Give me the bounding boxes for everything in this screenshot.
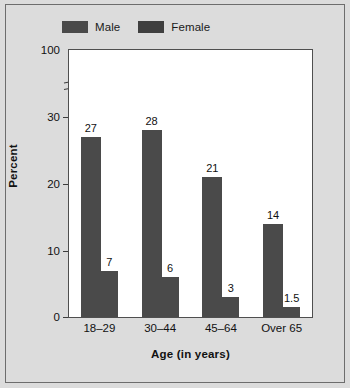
bar-value-label: 3 [213, 282, 249, 294]
bar-male-0 [81, 137, 101, 317]
x-tick-label: Over 65 [261, 322, 302, 334]
x-axis-tick-labels: 18–2930–4445–64Over 65 [68, 322, 313, 338]
bar-male-2 [202, 177, 222, 317]
bar-value-label: 14 [255, 209, 291, 221]
legend-swatch-female [138, 21, 164, 33]
bars-container: 277286213141.5 [69, 50, 312, 317]
plot-area: 277286213141.5 [68, 49, 313, 318]
legend-label-male: Male [95, 21, 120, 33]
bar-value-label: 21 [194, 162, 230, 174]
y-tick-label: 10 [47, 245, 60, 257]
x-tick-label: 18–29 [83, 322, 115, 334]
y-tick-label: 0 [54, 311, 60, 323]
bar-value-label: 28 [134, 115, 170, 127]
bar-female-1 [162, 277, 179, 317]
y-tick-label: 100 [41, 44, 60, 56]
y-tick-label: 30 [47, 111, 60, 123]
bar-value-label: 6 [152, 262, 188, 274]
y-tick-label: 20 [47, 178, 60, 190]
bar-female-3 [283, 307, 300, 317]
y-axis-tick-labels: 0102030100 [26, 49, 60, 318]
x-axis-title: Age (in years) [68, 348, 313, 360]
x-tick-label: 30–44 [144, 322, 176, 334]
legend-label-female: Female [171, 21, 210, 33]
bar-male-1 [142, 130, 162, 317]
bar-female-2 [222, 297, 239, 317]
legend-item-male: Male [62, 21, 120, 33]
x-tick-label: 45–64 [205, 322, 237, 334]
legend-swatch-male [62, 21, 88, 33]
chart-legend: Male Female [62, 18, 210, 36]
y-axis-title: Percent [7, 126, 19, 206]
bar-value-label: 7 [91, 256, 127, 268]
bar-value-label: 27 [73, 122, 109, 134]
legend-item-female: Female [138, 21, 210, 33]
bar-female-0 [101, 271, 118, 317]
bar-value-label: 1.5 [274, 292, 310, 304]
chart-figure: Male Female 0102030100 Percent 277286213… [0, 0, 350, 388]
